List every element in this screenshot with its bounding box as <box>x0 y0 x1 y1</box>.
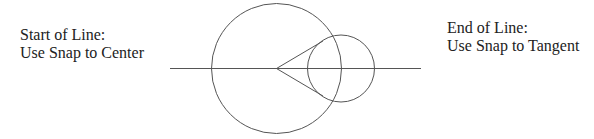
end-of-line-label: End of Line: Use Snap to Tangent <box>447 19 579 55</box>
end-label-line2: Use Snap to Tangent <box>447 37 579 55</box>
end-label-line1: End of Line: <box>447 19 579 37</box>
tangent-line-lower <box>277 69 324 97</box>
tangent-line-upper <box>277 41 324 69</box>
